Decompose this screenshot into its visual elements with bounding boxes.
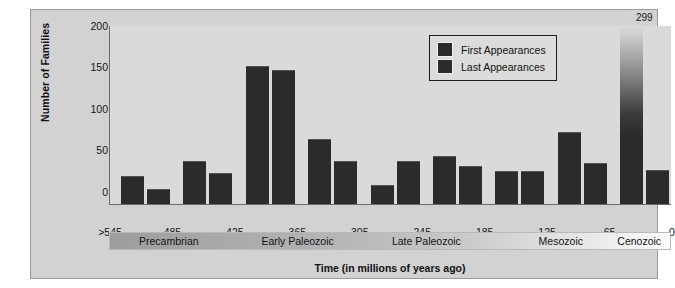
bar [121, 176, 144, 204]
legend-swatch-icon [437, 42, 453, 57]
bar [397, 161, 420, 204]
era-band: PrecambrianEarly PaleozoicLate Paleozoic… [109, 232, 671, 250]
x-axis-title: Time (in millions of years ago) [109, 262, 671, 274]
bar [584, 163, 607, 204]
bar [246, 66, 269, 204]
bar [209, 173, 232, 204]
legend-label: First Appearances [461, 44, 546, 56]
y-axis-title: Number of Families [39, 23, 51, 122]
era-label: Mesozoic [539, 235, 583, 247]
bar [183, 161, 206, 204]
bar [433, 156, 456, 204]
y-axis-tick-label: 200 [68, 20, 108, 32]
bar [521, 171, 544, 204]
chart-panel: Number of Families 050100150200 299 >545… [30, 9, 658, 279]
bar [272, 70, 295, 204]
legend-item-last-appearances: Last Appearances [437, 58, 546, 75]
bar [334, 161, 357, 204]
legend-label: Last Appearances [461, 61, 545, 73]
era-label: Early Paleozoic [261, 235, 333, 247]
legend-swatch-icon [437, 59, 453, 74]
plot-area: 050100150200 299 >5454854253653052451851… [109, 26, 671, 205]
bar-value-label: 299 [636, 12, 653, 23]
y-axis-tick-label: 0 [68, 186, 108, 198]
bar [308, 139, 331, 204]
bar [147, 189, 170, 204]
bar [371, 185, 394, 204]
era-label: Late Paleozoic [392, 235, 461, 247]
y-axis-tick-label: 150 [68, 61, 108, 73]
era-label: Precambrian [139, 235, 199, 247]
bar [620, 25, 643, 204]
bar [459, 166, 482, 204]
bar [558, 132, 581, 204]
bar [495, 171, 518, 204]
y-axis-tick-label: 100 [68, 103, 108, 115]
legend: First Appearances Last Appearances [429, 35, 557, 81]
bar [646, 170, 669, 204]
era-label: Cenozoic [617, 235, 661, 247]
y-axis-tick-label: 50 [68, 144, 108, 156]
legend-item-first-appearances: First Appearances [437, 41, 546, 58]
